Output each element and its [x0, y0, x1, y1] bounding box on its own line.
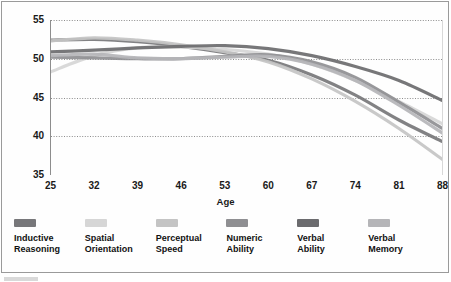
- gridlines: [51, 21, 442, 176]
- legend-swatch: [156, 219, 178, 227]
- line-chart-svg: [50, 20, 443, 175]
- legend-swatch: [85, 219, 107, 227]
- bottom-caption-mark: [4, 277, 38, 281]
- chart-legend: Inductive ReasoningSpatial OrientationPe…: [14, 219, 439, 271]
- legend-label: Numeric Ability: [226, 233, 262, 254]
- plot-area: [50, 20, 443, 175]
- legend-item[interactable]: Spatial Orientation: [85, 219, 155, 254]
- legend-item[interactable]: Numeric Ability: [226, 219, 296, 254]
- legend-label: Inductive Reasoning: [14, 233, 60, 254]
- legend-label: Perceptual Speed: [156, 233, 202, 254]
- legend-swatch: [226, 219, 248, 227]
- legend-item[interactable]: Perceptual Speed: [156, 219, 226, 254]
- legend-swatch: [14, 219, 36, 227]
- legend-label: Spatial Orientation: [85, 233, 133, 254]
- legend-item[interactable]: Verbal Ability: [297, 219, 367, 254]
- legend-swatch: [368, 219, 390, 227]
- legend-item[interactable]: Verbal Memory: [368, 219, 438, 254]
- legend-label: Verbal Memory: [368, 233, 403, 254]
- chart-figure: 5550454035 Mean T-Scores 253239465360677…: [0, 0, 451, 282]
- legend-label: Verbal Ability: [297, 233, 325, 254]
- x-axis-title: Age: [0, 196, 451, 207]
- legend-swatch: [297, 219, 319, 227]
- legend-item[interactable]: Inductive Reasoning: [14, 219, 84, 254]
- bottom-strip: [0, 276, 451, 282]
